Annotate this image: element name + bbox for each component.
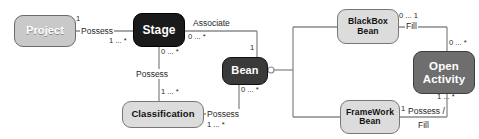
edge-label-fill: Fill <box>405 21 418 31</box>
node-open-activity-label-line1: Open <box>429 60 459 72</box>
edge-label-possess-project-stage: Possess <box>80 26 114 36</box>
node-open-activity[interactable]: Open Activity <box>413 51 475 94</box>
multiplicity-stage-possess: 0 ... * <box>161 47 179 56</box>
multiplicity-framework: 1 <box>401 104 405 113</box>
multiplicity-bean-associate: 1 <box>250 43 254 52</box>
node-stage[interactable]: Stage <box>133 13 185 47</box>
multiplicity-open-bottom: 1 ... * <box>437 92 455 101</box>
node-framework-bean[interactable]: FrameWork Bean <box>340 100 400 134</box>
multiplicity-classification-right: 1 ... * <box>207 120 225 129</box>
multiplicity-open-fill: 0 ... * <box>449 38 467 47</box>
node-blackbox-bean-label-line2: Bean <box>357 27 378 36</box>
multiplicity-bean-possess: 0 ... * <box>241 85 259 94</box>
node-blackbox-bean[interactable]: BlackBox Bean <box>337 9 399 44</box>
edge-label-possess-stage-classification: Possess <box>135 69 169 79</box>
node-bean-label: Bean <box>231 65 258 77</box>
edge-label-possess-fill-line1: Possess / <box>407 106 446 116</box>
edge-label-possess-classification-bean: Possess <box>206 109 240 119</box>
edge-label-possess-fill-line2: Fill <box>417 120 430 130</box>
node-project-label: Project <box>26 25 64 37</box>
node-bean[interactable]: Bean <box>222 57 268 85</box>
multiplicity-stage-associate: 0 ... * <box>188 32 206 41</box>
diagram-canvas: Project Stage Classification Bean BlackB… <box>0 0 479 139</box>
bean-branch-arrowhead <box>268 67 274 73</box>
node-project[interactable]: Project <box>14 15 76 47</box>
node-framework-bean-label-line2: Bean <box>359 117 380 126</box>
multiplicity-classification-top: 1 ... * <box>161 87 179 96</box>
node-classification[interactable]: Classification <box>122 101 204 128</box>
multiplicity-blackbox-fill: 0 ... 1 <box>399 11 418 20</box>
node-classification-label: Classification <box>131 109 194 119</box>
multiplicity-stage-from-project: 1 ... * <box>109 36 127 45</box>
node-open-activity-label-line2: Activity <box>423 73 465 85</box>
multiplicity-project: 1 <box>76 14 80 23</box>
edge-label-associate: Associate <box>192 18 231 28</box>
node-stage-label: Stage <box>142 24 175 37</box>
